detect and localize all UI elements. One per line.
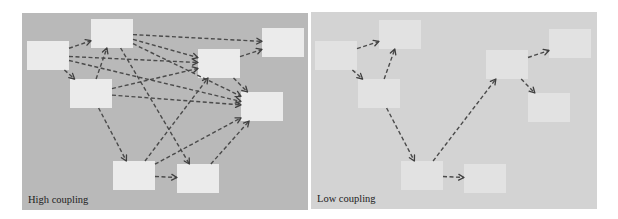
high-module-box-f	[241, 92, 283, 121]
low-module-box-h	[464, 164, 506, 193]
low-module-box-c	[358, 79, 400, 108]
low-module-box-g	[401, 161, 443, 190]
high-module-box-d	[198, 49, 240, 78]
high-module-box-a	[27, 41, 69, 70]
low-module-box-a	[315, 41, 357, 70]
high-module-box-g	[113, 161, 155, 190]
low-module-box-d	[486, 50, 528, 79]
high-module-box-e	[262, 28, 304, 57]
low-module-box-b	[379, 20, 421, 49]
high-coupling-caption: High coupling	[28, 194, 88, 205]
high-module-box-c	[70, 79, 112, 108]
high-module-box-h	[177, 164, 219, 193]
low-module-box-f	[528, 93, 570, 122]
low-module-box-e	[549, 29, 591, 58]
high-module-box-b	[91, 19, 133, 48]
low-coupling-caption: Low coupling	[317, 193, 376, 204]
